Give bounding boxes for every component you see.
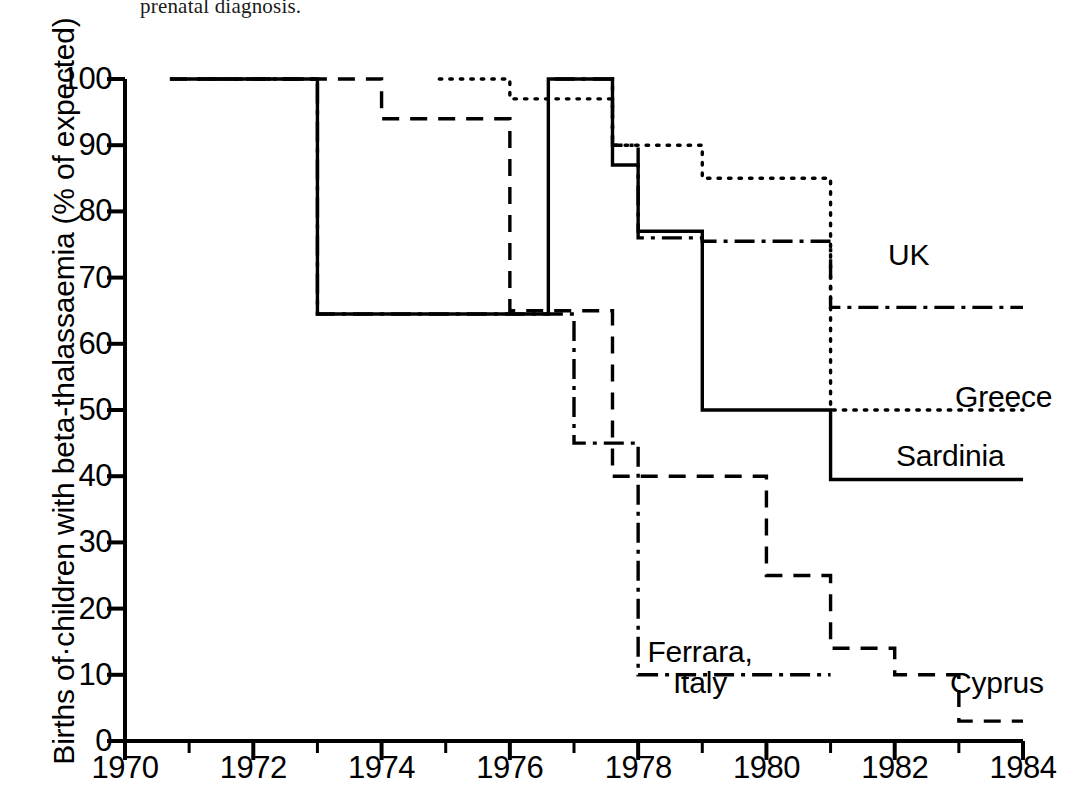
series-line-cyprus <box>170 79 1023 721</box>
series-label-ferrara: Ferrara, Italy <box>647 637 752 698</box>
series-line-uk <box>555 79 1023 307</box>
plot-area <box>0 0 1073 802</box>
chart-page: prenatal diagnosis. Births of·children w… <box>0 0 1073 802</box>
series-line-greece <box>439 79 1023 410</box>
series-label-uk: UK <box>888 240 929 271</box>
series-label-greece: Greece <box>955 382 1052 413</box>
series-line-ferrara-italy <box>170 79 831 675</box>
series-label-sardinia: Sardinia <box>896 441 1004 472</box>
series-line-sardinia <box>189 79 1023 480</box>
series-label-cyprus: Cyprus <box>950 668 1044 699</box>
